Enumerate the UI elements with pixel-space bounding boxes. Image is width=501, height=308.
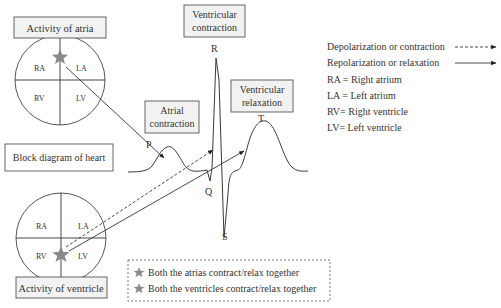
bottom-lv-label: LV (78, 252, 88, 261)
ventricular-contraction-box: Ventricular contraction (184, 5, 245, 37)
ventricular-contraction-line1: Ventricular (192, 9, 237, 20)
top-la-label: LA (76, 64, 87, 73)
note-atria-text: Both the atrias contract/relax together (148, 267, 300, 278)
legend-repolarization: Repolarization or relaxation (327, 57, 439, 68)
legend-la: LA = Left atrium (327, 90, 396, 101)
star-notes-box: Both the atrias contract/relax together … (128, 260, 330, 301)
activity-of-ventricle-box: Activity of ventricle (16, 277, 107, 298)
bottom-la-label: LA (78, 222, 89, 231)
top-lv-label: LV (76, 94, 86, 103)
legend-lv: LV= Left ventricle (327, 122, 402, 133)
ventricular-relaxation-box: Ventricular relaxation (231, 80, 293, 112)
bottom-rv-label: RV (36, 252, 47, 261)
r-wave-label: R (211, 43, 218, 54)
top-rv-label: RV (34, 94, 45, 103)
top-ra-label: RA (34, 64, 45, 73)
heart-ecg-diagram: RA LA RV LV Activity of atria Block diag… (0, 0, 501, 308)
note-ventricles-text: Both the ventricles contract/relax toget… (148, 283, 317, 294)
block-diagram-label-box: Block diagram of heart (5, 144, 113, 171)
t-wave-label: T (258, 113, 264, 124)
q-wave-label: Q (205, 186, 213, 197)
p-wave-label: P (146, 139, 152, 150)
atrial-contraction-line2: contraction (150, 118, 195, 129)
activity-of-ventricle-label: Activity of ventricle (18, 283, 103, 294)
legend-depolarization: Depolarization or contraction (327, 41, 445, 52)
s-wave-label: S (222, 231, 228, 242)
atria-heart-block: RA LA RV LV (15, 35, 105, 125)
legend-ra: RA = Right atrium (327, 74, 402, 85)
legend: Depolarization or contraction Repolariza… (327, 41, 496, 133)
block-diagram-label: Block diagram of heart (13, 152, 106, 163)
atrial-contraction-line1: Atrial (160, 105, 184, 116)
legend-rv: RV= Right ventricle (327, 106, 408, 117)
atrial-contraction-box: Atrial contraction (145, 101, 199, 133)
activity-of-atria-box: Activity of atria (14, 17, 106, 38)
ventricular-contraction-line2: contraction (192, 22, 237, 33)
activity-of-atria-label: Activity of atria (26, 23, 93, 34)
ventricular-relaxation-line2: relaxation (242, 97, 282, 108)
ventricular-relaxation-line1: Ventricular (240, 84, 285, 95)
bottom-ra-label: RA (36, 222, 47, 231)
